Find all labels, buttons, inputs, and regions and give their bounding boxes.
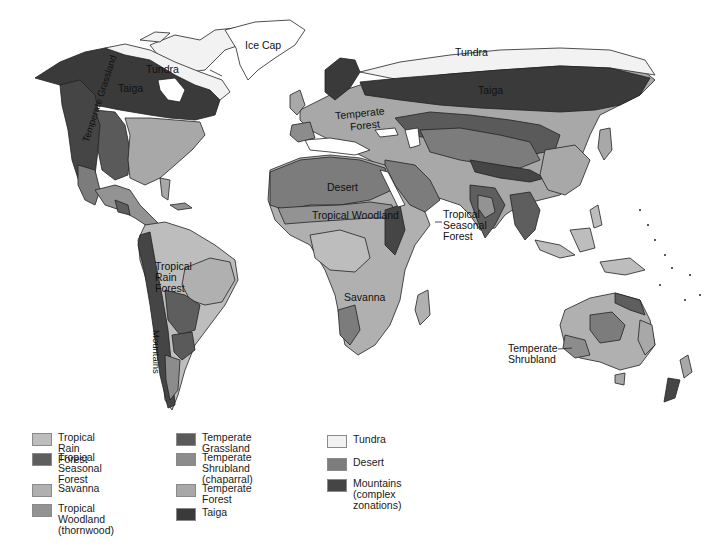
swatch-tropical-rain-forest bbox=[32, 433, 52, 446]
legend-label: Tropical Seasonal bbox=[58, 452, 102, 474]
legend: Tropical Rain Forest Tropical SeasonalFo… bbox=[32, 432, 712, 542]
swatch-tundra bbox=[327, 435, 347, 448]
legend-label: Taiga bbox=[202, 507, 227, 518]
swatch-desert bbox=[327, 458, 347, 471]
label-tropical-seasonal-3: Forest bbox=[443, 231, 473, 242]
swatch-temperate-forest bbox=[176, 484, 196, 497]
legend-label: (thornwood) bbox=[58, 525, 114, 536]
swatch-savanna bbox=[32, 484, 52, 497]
legend-item-desert: Desert bbox=[327, 457, 384, 471]
legend-item-taiga: Taiga bbox=[176, 507, 227, 521]
legend-item-temperate-shrubland: Temperate Shrubland(chaparral) bbox=[176, 452, 253, 485]
label-taiga-eu: Taiga bbox=[478, 85, 503, 96]
swatch-mountains bbox=[327, 479, 347, 492]
legend-label: Temperate Shrubland bbox=[202, 452, 253, 474]
legend-label: Tundra bbox=[353, 434, 386, 445]
label-mountains: Mountains bbox=[151, 330, 162, 374]
swatch-taiga bbox=[176, 508, 196, 521]
label-temperate-shrubland-2: Shrubland bbox=[508, 354, 556, 365]
legend-item-mountains: Mountains(complex zonations) bbox=[327, 478, 401, 511]
legend-item-temperate-forest: Temperate Forest bbox=[176, 483, 252, 505]
label-tropical-rain-3: Forest bbox=[155, 283, 185, 294]
legend-item-savanna: Savanna bbox=[32, 483, 99, 497]
legend-label: Tropical Woodland bbox=[58, 503, 114, 525]
swatch-temperate-grassland bbox=[176, 433, 196, 446]
label-ice-cap: Ice Cap bbox=[245, 40, 281, 51]
label-savanna: Savanna bbox=[344, 292, 385, 303]
label-tropical-woodland: Tropical Woodland bbox=[312, 210, 399, 221]
swatch-tropical-seasonal-forest bbox=[32, 453, 52, 466]
label-taiga-na: Taiga bbox=[118, 83, 143, 94]
legend-item-tropical-woodland: Tropical Woodland(thornwood) bbox=[32, 503, 114, 536]
swatch-tropical-woodland bbox=[32, 504, 52, 517]
legend-label: Savanna bbox=[58, 483, 99, 494]
legend-item-tropical-seasonal-forest: Tropical SeasonalForest bbox=[32, 452, 102, 485]
legend-label: Temperate Forest bbox=[202, 483, 252, 505]
legend-label: (complex zonations) bbox=[353, 489, 401, 511]
legend-item-tundra: Tundra bbox=[327, 434, 386, 448]
swatch-temperate-shrubland bbox=[176, 453, 196, 466]
label-tundra-na: Tundra bbox=[146, 64, 179, 75]
legend-label: Desert bbox=[353, 457, 384, 468]
label-desert: Desert bbox=[327, 182, 358, 193]
